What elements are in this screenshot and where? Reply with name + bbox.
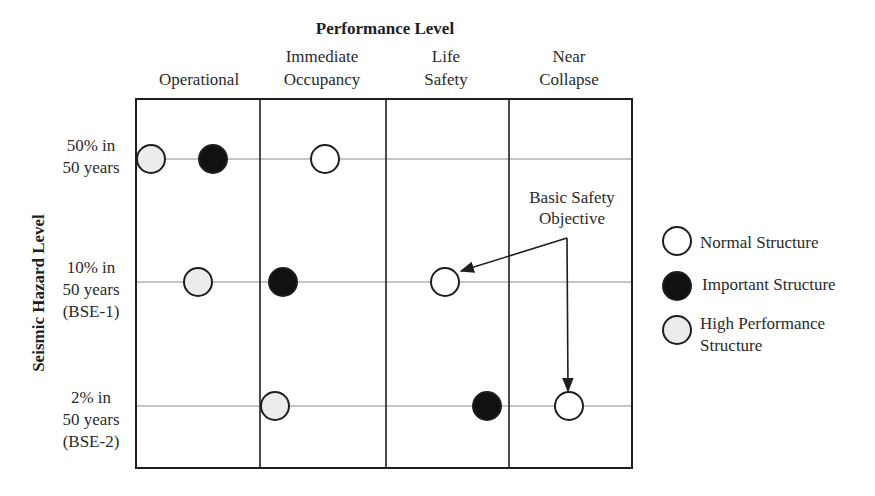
marker-important (473, 392, 501, 420)
row-labels: 50% in 50 years 10% in 50 years (BSE-1) … (62, 136, 119, 451)
annotation-line1: Basic Safety (529, 188, 615, 207)
row-label-2pct-line2: 50 years (62, 410, 119, 429)
annotation-line2: Objective (539, 209, 605, 228)
row-label-10pct-line3: (BSE-1) (63, 302, 120, 321)
legend: Normal Structure Important Structure Hig… (663, 227, 836, 355)
column-header-life-safety-line2: Safety (424, 70, 468, 89)
column-header-immediate-occupancy-line2: Occupancy (284, 70, 361, 89)
marker-normal (555, 392, 583, 420)
legend-high-performance-structure-icon (663, 316, 691, 344)
diagram-title: Performance Level (316, 19, 455, 38)
legend-high-performance-structure-label-line1: High Performance (700, 314, 825, 333)
marker-important (269, 268, 297, 296)
legend-important-structure-label: Important Structure (702, 275, 836, 294)
marker-high-performance (261, 392, 289, 420)
column-header-life-safety-line1: Life (432, 47, 460, 66)
column-header-near-collapse-line1: Near (552, 47, 585, 66)
column-headers: Operational Immediate Occupancy Life Saf… (159, 47, 599, 89)
row-label-50pct-line1: 50% in (67, 136, 116, 155)
legend-high-performance-structure-label-line2: Structure (700, 336, 762, 355)
basic-safety-objective-annotation: Basic Safety Objective (461, 188, 615, 391)
legend-normal-structure-label: Normal Structure (700, 233, 819, 252)
row-label-50pct-line2: 50 years (62, 158, 119, 177)
row-label-2pct-line1: 2% in (71, 388, 112, 407)
column-header-immediate-occupancy-line1: Immediate (286, 47, 359, 66)
arrow-to-near-collapse (567, 238, 568, 391)
marker-high-performance (137, 145, 165, 173)
row-label-10pct-line1: 10% in (67, 258, 116, 277)
legend-important-structure-icon (663, 272, 691, 300)
y-axis-label: Seismic Hazard Level (29, 214, 48, 372)
marker-normal (311, 145, 339, 173)
marker-important (199, 145, 227, 173)
marker-high-performance (184, 268, 212, 296)
legend-normal-structure-icon (663, 227, 691, 255)
marker-normal (431, 268, 459, 296)
column-header-operational: Operational (159, 70, 240, 89)
row-label-10pct-line2: 50 years (62, 280, 119, 299)
arrow-to-life-safety (461, 238, 567, 271)
column-header-near-collapse-line2: Collapse (539, 70, 599, 89)
row-label-2pct-line3: (BSE-2) (63, 432, 120, 451)
performance-objective-diagram: Performance Level Operational Immediate … (0, 0, 875, 496)
